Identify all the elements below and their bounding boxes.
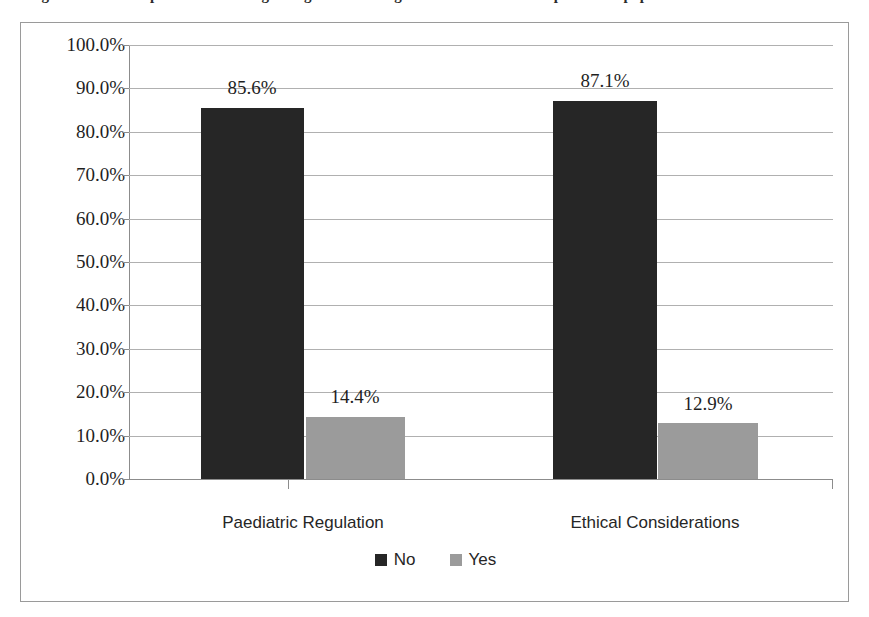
- legend-item-yes[interactable]: Yes: [450, 550, 497, 570]
- y-axis-tick: [122, 305, 129, 306]
- y-axis-label: 40.0%: [29, 294, 125, 316]
- y-axis-label: 20.0%: [29, 381, 125, 403]
- y-axis-tick: [122, 219, 129, 220]
- bar-value-label: 12.9%: [638, 393, 778, 415]
- bar-value-label: 14.4%: [285, 386, 425, 408]
- plot-area: 85.6% 14.4% 87.1% 12.9% Paediatric Regul…: [129, 45, 833, 479]
- y-axis-label: 90.0%: [29, 77, 125, 99]
- y-axis-label: 50.0%: [29, 251, 125, 273]
- y-axis-label: 80.0%: [29, 121, 125, 143]
- y-axis-tick: [122, 88, 129, 89]
- legend-swatch-icon: [375, 554, 387, 566]
- chart-legend: No Yes: [21, 550, 850, 570]
- x-axis-end-tick: [832, 480, 833, 489]
- bar-no-paediatric-regulation[interactable]: [201, 108, 304, 480]
- bar-no-ethical-considerations[interactable]: [553, 101, 657, 479]
- legend-label: Yes: [469, 550, 497, 570]
- figure-caption-strip: Figure: Reasons reported for making chan…: [0, 0, 869, 13]
- y-axis-tick: [122, 132, 129, 133]
- y-axis-labels: 100.0% 90.0% 80.0% 70.0% 60.0% 50.0% 40.…: [25, 45, 125, 479]
- y-axis-label: 30.0%: [29, 338, 125, 360]
- bar-yes-paediatric-regulation[interactable]: [306, 417, 405, 480]
- y-axis-tick: [122, 349, 129, 350]
- y-axis-label: 100.0%: [29, 34, 125, 56]
- legend-item-no[interactable]: No: [375, 550, 416, 570]
- y-axis-label: 10.0%: [29, 425, 125, 447]
- y-axis-label: 60.0%: [29, 208, 125, 230]
- bar-value-label: 87.1%: [535, 70, 675, 92]
- bar-yes-ethical-considerations[interactable]: [658, 423, 758, 479]
- bar-value-label: 85.6%: [182, 77, 322, 99]
- figure-caption-text: Figure: Reasons reported for making chan…: [28, 0, 848, 4]
- y-axis-label: 70.0%: [29, 164, 125, 186]
- y-axis-tick: [122, 45, 129, 46]
- legend-label: No: [394, 550, 416, 570]
- y-axis-label: 0.0%: [29, 468, 125, 490]
- y-axis-tick: [122, 479, 129, 480]
- x-axis-line: [129, 479, 833, 480]
- y-axis-tick: [122, 392, 129, 393]
- category-divider-tick: [288, 480, 289, 489]
- y-axis-tick: [122, 175, 129, 176]
- legend-swatch-icon: [450, 554, 462, 566]
- y-axis-tick: [122, 262, 129, 263]
- gridline: [129, 45, 833, 46]
- x-axis-category-label: Paediatric Regulation: [143, 513, 463, 533]
- y-axis-tick: [122, 436, 129, 437]
- chart-frame: 100.0% 90.0% 80.0% 70.0% 60.0% 50.0% 40.…: [20, 22, 849, 602]
- x-axis-category-label: Ethical Considerations: [495, 513, 815, 533]
